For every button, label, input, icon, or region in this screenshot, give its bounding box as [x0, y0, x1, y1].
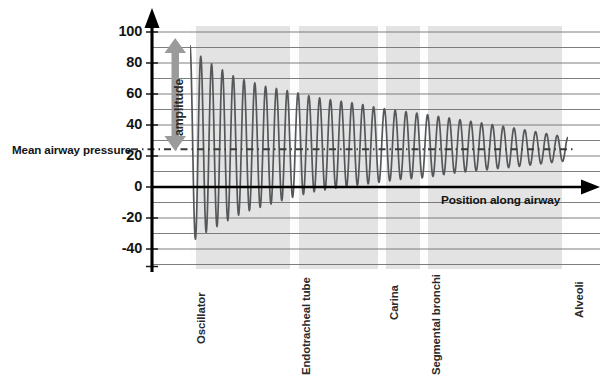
y-tick-label-100: 100 [96, 23, 142, 39]
x-axis-arrowhead [581, 180, 600, 195]
y-tick-label-neg20: -20 [96, 209, 142, 225]
y-tick-label-60: 60 [96, 85, 142, 101]
y-tick-label-neg40: -40 [96, 240, 142, 256]
x-category-label-carina: Carina [388, 285, 400, 320]
figure-airway-pressure-oscillation: 100 80 60 40 20 0 -20 -40 Mean airway pr… [0, 0, 606, 380]
x-category-label-segmental-bronchi: Segmental bronchi [430, 274, 442, 375]
amplitude-label: amplitude [172, 79, 186, 136]
mean-airway-pressure-label: Mean airway pressure [12, 143, 131, 156]
y-tick-label-0: 0 [96, 178, 142, 194]
y-tick-label-40: 40 [96, 116, 142, 132]
x-category-label-oscillator: Oscillator [195, 292, 207, 344]
x-category-label-endotracheal-tube: Endotracheal tube [300, 277, 312, 375]
y-tick-label-80: 80 [96, 54, 142, 70]
y-axis-arrowhead [145, 8, 160, 28]
x-axis-title: Position along airway [441, 193, 560, 207]
x-category-label-alveoli: Alveoli [573, 281, 585, 318]
